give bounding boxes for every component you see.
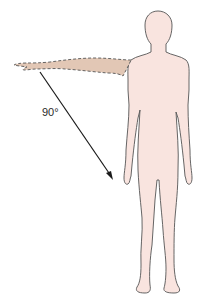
body-silhouette	[124, 11, 192, 293]
angle-label: 90°	[42, 106, 59, 118]
abduction-figure: 90°	[0, 0, 204, 301]
abduction-arrow-line	[40, 72, 111, 176]
arrowhead-icon	[106, 171, 113, 180]
abducted-arm	[14, 58, 131, 76]
